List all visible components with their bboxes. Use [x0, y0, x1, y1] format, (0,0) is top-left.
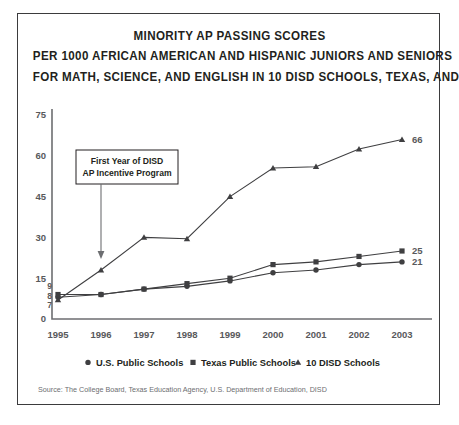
line-chart: 0153045607519951996199719981999200020012… — [18, 14, 441, 406]
data-point-texas-public-schools-1998 — [184, 281, 189, 286]
data-point-10-disd-schools-1999 — [227, 194, 233, 200]
x-axis-tick-1998: 1998 — [176, 329, 197, 340]
legend-label-2: 10 DISD Schools — [306, 358, 380, 368]
y-axis-tick-60: 60 — [35, 150, 46, 161]
data-point-u-s-public-schools-2003 — [399, 259, 404, 264]
x-axis-tick-1999: 1999 — [219, 329, 240, 340]
data-point-texas-public-schools-1996 — [98, 292, 103, 297]
y-axis-tick-0: 0 — [41, 313, 46, 324]
legend-label-0: U.S. Public Schools — [96, 358, 183, 368]
data-point-texas-public-schools-1995 — [55, 292, 60, 297]
y-axis-tick-75: 75 — [35, 109, 46, 120]
data-point-texas-public-schools-2000 — [270, 262, 275, 267]
data-point-u-s-public-schools-2001 — [313, 267, 318, 272]
x-axis-tick-2001: 2001 — [305, 329, 327, 340]
y-axis-tick-15: 15 — [35, 273, 46, 284]
annotation-line-2: AP Incentive Program — [82, 168, 172, 178]
y-axis-tick-45: 45 — [35, 191, 46, 202]
legend-marker-circle — [85, 360, 90, 365]
end-label-disd: 66 — [412, 134, 423, 145]
x-axis-tick-2000: 2000 — [262, 329, 283, 340]
start-label-disd: 7 — [47, 300, 52, 310]
end-label-us: 21 — [412, 256, 423, 267]
series-line-texas-public-schools — [58, 251, 402, 295]
y-axis-tick-30: 30 — [35, 232, 46, 243]
x-axis-tick-2003: 2003 — [391, 329, 412, 340]
data-point-10-disd-schools-2003 — [399, 136, 405, 142]
x-axis-tick-1997: 1997 — [133, 329, 154, 340]
data-point-texas-public-schools-1997 — [141, 286, 146, 291]
x-axis-tick-1996: 1996 — [90, 329, 111, 340]
source-note: Source: The College Board, Texas Educati… — [38, 385, 327, 394]
data-point-texas-public-schools-2003 — [399, 248, 404, 253]
start-label-us: 8 — [47, 291, 52, 301]
data-point-texas-public-schools-2001 — [313, 259, 318, 264]
chart-frame: MINORITY AP PASSING SCORES PER 1000 AFRI… — [17, 13, 440, 405]
data-point-u-s-public-schools-2002 — [356, 262, 361, 267]
annotation-line-1: First Year of DISD — [91, 156, 163, 166]
legend-marker-square — [190, 360, 195, 365]
x-axis-tick-1995: 1995 — [47, 329, 69, 340]
end-label-texas: 25 — [412, 245, 423, 256]
data-point-u-s-public-schools-2000 — [270, 270, 275, 275]
x-axis-tick-2002: 2002 — [348, 329, 369, 340]
legend-label-1: Texas Public Schools — [201, 358, 296, 368]
chart-axes — [52, 109, 432, 319]
plot-area: 0153045607519951996199719981999200020012… — [18, 14, 441, 406]
annotation-arrow-head — [98, 251, 105, 259]
data-point-texas-public-schools-1999 — [227, 276, 232, 281]
data-point-texas-public-schools-2002 — [356, 254, 361, 259]
